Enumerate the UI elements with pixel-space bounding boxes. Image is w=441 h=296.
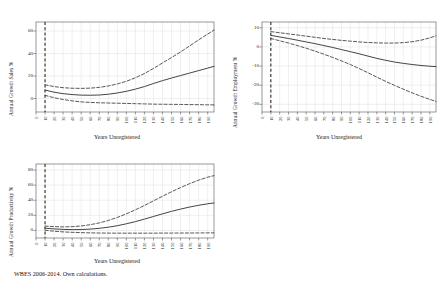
x-tick-label: 130: [374, 117, 379, 131]
x-tick-label: 10: [268, 117, 273, 131]
x-tick-label: 20: [52, 117, 57, 131]
y-tick-label: 0: [14, 227, 33, 232]
y-tick-label: 40: [14, 51, 33, 56]
x-tick-label: 90: [339, 117, 344, 131]
source-footnote: WBES 2006-2014. Own calculations.: [14, 270, 107, 277]
y-tick-label: -20: [240, 82, 259, 87]
x-tick-label: 140: [160, 243, 165, 257]
x-tick-label: 40: [295, 117, 300, 131]
y-tick-label: 20: [14, 212, 33, 217]
x-tick-label: 150: [169, 117, 174, 131]
x-tick-label: 50: [79, 117, 84, 131]
x-tick-label: 170: [187, 243, 192, 257]
x-tick-label: 90: [115, 117, 120, 131]
y-tick-label: 60: [14, 182, 33, 187]
x-tick-label: 180: [418, 117, 423, 131]
x-tick-label: 120: [142, 243, 147, 257]
x-tick-label: 40: [70, 117, 75, 131]
x-axis-label-sales: Years Unregistered: [32, 134, 202, 140]
x-tick-label: 170: [410, 117, 415, 131]
x-tick-label: 100: [124, 117, 129, 131]
x-axis-label-employment: Years Unregistered: [254, 134, 424, 140]
x-tick-label: 190: [205, 117, 210, 131]
y-tick-label: -10: [240, 63, 259, 68]
x-tick-label: 60: [312, 117, 317, 131]
x-tick-label: 150: [392, 117, 397, 131]
x-tick-label: 190: [205, 243, 210, 257]
x-tick-label: 150: [169, 243, 174, 257]
x-tick-label: 160: [178, 117, 183, 131]
x-tick-label: 30: [286, 117, 291, 131]
x-tick-label: 130: [151, 117, 156, 131]
x-tick-label: 100: [348, 117, 353, 131]
x-tick-label: 80: [106, 243, 111, 257]
x-tick-label: 80: [330, 117, 335, 131]
x-tick-label: 20: [277, 117, 282, 131]
x-tick-label: 120: [142, 117, 147, 131]
x-tick-label: 160: [178, 243, 183, 257]
x-tick-label: 110: [133, 243, 138, 257]
x-tick-label: 90: [115, 243, 120, 257]
x-tick-label: 110: [133, 117, 138, 131]
x-tick-label: 10: [43, 117, 48, 131]
y-tick-label: 0: [14, 96, 33, 101]
x-tick-label: 70: [321, 117, 326, 131]
y-tick-label: 40: [14, 197, 33, 202]
y-tick-label: 80: [14, 167, 33, 172]
x-tick-label: 190: [427, 117, 432, 131]
chart-panel-productivity: Annual Growth Productivity % Years Unreg…: [2, 150, 217, 270]
x-tick-label: 30: [61, 243, 66, 257]
x-tick-label: 180: [196, 243, 201, 257]
x-tick-label: 160: [401, 117, 406, 131]
x-tick-label: 140: [383, 117, 388, 131]
x-tick-label: 50: [304, 117, 309, 131]
x-tick-label: 70: [97, 243, 102, 257]
x-tick-label: 100: [124, 243, 129, 257]
figure-panel-group: Annual Growth Sales % Years Unregistered…: [0, 0, 441, 296]
x-tick-label: 60: [88, 243, 93, 257]
x-tick-label: 170: [187, 117, 192, 131]
y-tick-label: 10: [240, 25, 259, 30]
y-tick-label: 60: [14, 28, 33, 33]
x-axis-label-productivity: Years Unregistered: [32, 258, 202, 264]
chart-panel-employment: Annual Growth Employment % Years Unregis…: [226, 6, 439, 146]
x-tick-label: 10: [43, 243, 48, 257]
x-tick-label: 80: [106, 117, 111, 131]
x-tick-label: 180: [196, 117, 201, 131]
x-tick-label: 20: [52, 243, 57, 257]
y-tick-label: 20: [14, 73, 33, 78]
y-tick-label: -30: [240, 101, 259, 106]
x-tick-label: 130: [151, 243, 156, 257]
chart-panel-sales: Annual Growth Sales % Years Unregistered…: [2, 6, 217, 146]
x-tick-label: 60: [88, 117, 93, 131]
x-tick-label: 40: [70, 243, 75, 257]
x-tick-label: 120: [365, 117, 370, 131]
x-tick-label: 50: [79, 243, 84, 257]
x-tick-label: 30: [61, 117, 66, 131]
x-tick-label: 110: [357, 117, 362, 131]
x-tick-label: 0: [34, 117, 39, 131]
x-tick-label: 70: [97, 117, 102, 131]
x-tick-label: 0: [260, 117, 265, 131]
x-tick-label: 0: [34, 243, 39, 257]
y-tick-label: 0: [240, 44, 259, 49]
x-tick-label: 140: [160, 117, 165, 131]
